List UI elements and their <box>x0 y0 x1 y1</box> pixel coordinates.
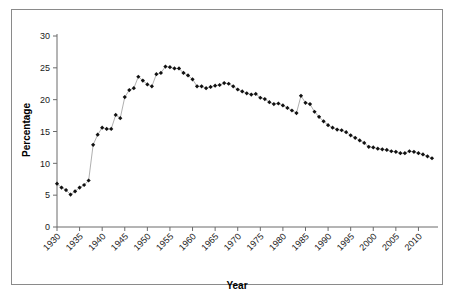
data-point-marker <box>100 126 104 130</box>
data-point-marker <box>421 152 425 156</box>
data-point-marker <box>389 149 393 153</box>
data-series <box>55 64 434 196</box>
data-point-marker <box>425 154 429 158</box>
data-point-marker <box>371 145 375 149</box>
x-axis-tick-label: 1940 <box>86 231 107 252</box>
chart-figure: 051015202530 193019351940194519501955196… <box>0 0 456 302</box>
data-point-marker <box>376 147 380 151</box>
data-point-marker <box>407 149 411 153</box>
data-point-marker <box>331 126 335 130</box>
x-axis-tick-label: 1990 <box>312 231 333 252</box>
x-axis-tick-label: 1995 <box>335 231 356 252</box>
data-point-marker <box>96 133 100 137</box>
data-point-marker <box>172 66 176 70</box>
x-axis-tick-label: 1930 <box>41 231 62 252</box>
data-point-marker <box>358 138 362 142</box>
data-point-marker <box>416 151 420 155</box>
x-axis-tick-label: 1975 <box>244 231 265 252</box>
data-point-marker <box>294 111 298 115</box>
x-axis-tick-label: 2000 <box>357 231 378 252</box>
data-point-marker <box>353 136 357 140</box>
x-axis-tick-label: 2005 <box>380 231 401 252</box>
data-point-marker <box>132 86 136 90</box>
data-point-marker <box>398 151 402 155</box>
data-point-marker <box>385 148 389 152</box>
data-point-marker <box>412 150 416 154</box>
y-axis-tick-label: 10 <box>40 159 50 169</box>
data-point-marker <box>109 127 113 131</box>
x-axis-tick-label: 1980 <box>267 231 288 252</box>
data-point-marker <box>218 83 222 87</box>
data-point-marker <box>222 81 226 85</box>
series-line <box>57 67 432 195</box>
y-axis-title: Percentage <box>21 103 32 157</box>
y-axis: 051015202530 <box>40 31 57 232</box>
data-point-marker <box>168 65 172 69</box>
y-axis-tick-label: 15 <box>40 127 50 137</box>
x-axis-tick-label: 1935 <box>64 231 85 252</box>
data-point-marker <box>249 92 253 96</box>
data-point-marker <box>227 82 231 86</box>
y-axis-tick-label: 0 <box>45 222 50 232</box>
data-point-marker <box>394 150 398 154</box>
data-point-marker <box>204 86 208 90</box>
data-point-marker <box>240 89 244 93</box>
data-point-marker <box>245 91 249 95</box>
x-axis-tick-label: 2010 <box>403 231 424 252</box>
chart-canvas: 051015202530 193019351940194519501955196… <box>0 0 456 302</box>
data-point-marker <box>380 147 384 151</box>
data-point-marker <box>154 72 158 76</box>
data-point-marker <box>308 102 312 106</box>
data-point-marker <box>91 143 95 147</box>
data-point-marker <box>290 108 294 112</box>
y-axis-tick-label: 30 <box>40 31 50 41</box>
data-point-marker <box>199 84 203 88</box>
y-axis-tick-label: 20 <box>40 95 50 105</box>
data-point-marker <box>303 101 307 105</box>
x-axis-tick-label: 1985 <box>290 231 311 252</box>
data-point-marker <box>272 102 276 106</box>
data-point-marker <box>105 127 109 131</box>
data-point-marker <box>281 103 285 107</box>
data-point-marker <box>213 84 217 88</box>
x-axis-tick-label: 1960 <box>177 231 198 252</box>
x-axis-tick-label: 1965 <box>199 231 220 252</box>
data-point-marker <box>299 94 303 98</box>
data-point-marker <box>340 128 344 132</box>
x-axis-tick-label: 1950 <box>132 231 153 252</box>
y-axis-tick-label: 25 <box>40 63 50 73</box>
data-point-marker <box>150 84 154 88</box>
x-axis: 1930193519401945195019551960196519701975… <box>41 227 438 253</box>
x-axis-tick-label: 1970 <box>222 231 243 252</box>
data-point-marker <box>127 88 131 92</box>
x-axis-tick-label: 1955 <box>154 231 175 252</box>
data-point-marker <box>123 95 127 99</box>
data-point-marker <box>430 156 434 160</box>
data-point-marker <box>403 151 407 155</box>
data-point-marker <box>209 85 213 89</box>
y-axis-tick-label: 5 <box>45 190 50 200</box>
data-point-marker <box>276 101 280 105</box>
data-point-marker <box>285 106 289 110</box>
x-axis-title: Year <box>226 280 247 291</box>
data-point-marker <box>335 127 339 131</box>
data-point-marker <box>195 84 199 88</box>
x-axis-tick-label: 1945 <box>109 231 130 252</box>
